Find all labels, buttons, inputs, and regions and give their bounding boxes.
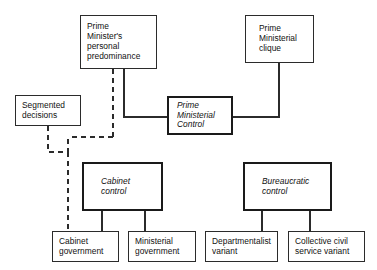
diagram-canvas: Prime Minister's personal predominance P… [0, 0, 377, 270]
node-line: clique [259, 44, 313, 54]
node-line: decisions [22, 111, 80, 121]
node-line: variant [212, 247, 277, 257]
node-line: Cabinet [59, 237, 118, 247]
edge-segmented-dashed [48, 126, 68, 152]
node-line: Segmented [22, 101, 80, 111]
node-prime-ministers-personal-predominance[interactable]: Prime Minister's personal predominance [80, 15, 157, 69]
node-line: Departmentalist [212, 237, 277, 247]
node-line: government [59, 247, 118, 257]
node-prime-ministerial-control[interactable]: Prime Ministerial Control [167, 96, 233, 135]
connector-layer [0, 0, 377, 270]
node-collective-civil-service-variant[interactable]: Collective civil service variant [288, 231, 365, 262]
node-line: government [135, 247, 195, 257]
node-segmented-decisions[interactable]: Segmented decisions [15, 95, 81, 126]
node-ministerial-government[interactable]: Ministerial government [128, 231, 196, 262]
node-bureaucratic-control[interactable]: Bureaucratic control [243, 162, 332, 211]
node-line: Bureaucratic [262, 177, 330, 187]
node-line: predominance [87, 52, 156, 62]
node-line: Cabinet [101, 177, 161, 187]
node-line: service variant [295, 247, 364, 257]
node-line: control [101, 187, 161, 197]
node-line: control [262, 187, 330, 197]
node-line: Ministerial [135, 237, 195, 247]
node-departmentalist-variant[interactable]: Departmentalist variant [205, 231, 278, 262]
edge-clique-to-control [233, 63, 279, 117]
edge-predominance-to-control [124, 69, 167, 117]
node-cabinet-government[interactable]: Cabinet government [52, 231, 119, 262]
node-prime-ministerial-clique[interactable]: Prime Ministerial clique [245, 15, 314, 63]
node-cabinet-control[interactable]: Cabinet control [82, 162, 163, 211]
node-line: Collective civil [295, 237, 364, 247]
node-line: Control [177, 120, 231, 130]
